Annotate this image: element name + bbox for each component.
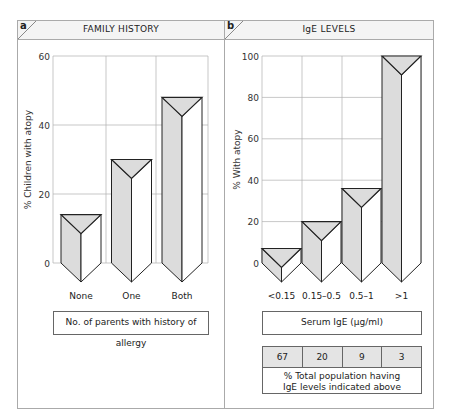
y-tick-label: 100	[242, 52, 259, 62]
x-tick-label: Both	[172, 291, 193, 301]
bar	[302, 222, 341, 282]
ige-levels-chart: 020406080100% With atopy<0.150.15–0.50.5…	[225, 21, 435, 321]
population-cell: 20	[303, 347, 343, 367]
y-tick-label: 40	[248, 176, 260, 186]
family-history-chart: 0204060% Children with atopyNoneOneBoth	[18, 21, 226, 321]
population-note-line: IgE levels indicated above	[263, 382, 421, 393]
y-tick-label: 60	[248, 134, 260, 144]
y-axis-label: % With atopy	[232, 129, 242, 190]
x-tick-label: <0.15	[268, 291, 296, 301]
y-tick-label: 20	[39, 190, 51, 200]
panel-ige-levels: b IgE LEVELS 020406080100% With atopy<0.…	[224, 20, 434, 409]
bar	[61, 215, 101, 282]
population-note-line: % Total population having	[263, 371, 421, 382]
x-tick-label: 0.5–1	[349, 291, 374, 301]
population-cell: 9	[343, 347, 383, 367]
panel-family-history: a FAMILY HISTORY 0204060% Children with …	[17, 20, 225, 409]
x-tick-label: None	[69, 291, 93, 301]
bar	[342, 188, 381, 282]
x-tick-label: >1	[395, 291, 408, 301]
population-cell: 3	[382, 347, 421, 367]
y-tick-label: 40	[39, 121, 51, 131]
population-values-row: 67 20 9 3	[263, 347, 421, 368]
population-note: % Total population having IgE levels ind…	[263, 368, 421, 393]
bar	[112, 160, 152, 283]
y-tick-label: 80	[248, 93, 260, 103]
x-axis-caption: No. of parents with history of allergy	[53, 311, 209, 335]
bar	[382, 56, 421, 282]
y-axis-label: % Children with atopy	[23, 109, 33, 209]
bar	[162, 97, 202, 282]
y-tick-label: 0	[44, 259, 50, 269]
bar	[262, 249, 301, 282]
x-axis-caption: Serum IgE (µg/ml)	[262, 311, 422, 335]
population-cell: 67	[263, 347, 303, 367]
y-tick-label: 0	[253, 259, 259, 269]
y-tick-label: 20	[248, 217, 260, 227]
x-tick-label: 0.15–0.5	[302, 291, 341, 301]
y-tick-label: 60	[39, 52, 51, 62]
x-tick-label: One	[122, 291, 141, 301]
population-table: 67 20 9 3 % Total population having IgE …	[262, 346, 422, 394]
